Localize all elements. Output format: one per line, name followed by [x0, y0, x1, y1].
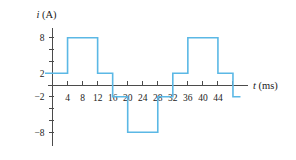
y-axis-title: i (A) — [36, 9, 57, 21]
current-waveform-chart: 48121620242832364044 82−2−8 t (ms) i (A) — [0, 0, 296, 160]
x-tick-label-8: 8 — [80, 93, 85, 103]
y-tick-label--2: −2 — [34, 92, 44, 102]
x-tick-label-12: 12 — [93, 93, 103, 103]
y-tick-label-2: 2 — [40, 69, 45, 79]
x-tick-label-40: 40 — [198, 93, 208, 103]
x-tick-label-44: 44 — [213, 93, 223, 103]
waveform-figure: 48121620242832364044 82−2−8 t (ms) i (A) — [0, 0, 296, 160]
x-tick-label-4: 4 — [65, 93, 70, 103]
x-tick-label-36: 36 — [183, 93, 193, 103]
y-axis-title-unit: (A) — [39, 9, 57, 21]
y-tick-label-8: 8 — [40, 33, 45, 43]
y-tick-label--8: −8 — [34, 128, 44, 138]
y-axis-tick-labels: 82−2−8 — [34, 33, 44, 137]
x-tick-label-24: 24 — [138, 93, 148, 103]
x-axis-title: t (ms) — [253, 80, 278, 92]
x-axis-title-unit: (ms) — [256, 80, 278, 92]
x-axis-tick-labels: 48121620242832364044 — [65, 93, 223, 103]
